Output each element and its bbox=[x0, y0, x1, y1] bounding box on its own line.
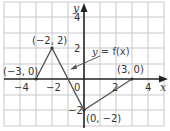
label-point-3-0: (3, 0) bbox=[117, 64, 144, 75]
point-neg2-2 bbox=[50, 46, 53, 49]
tick-y-2: 2 bbox=[74, 43, 80, 54]
label-point-0-neg2: (0, −2) bbox=[86, 113, 121, 124]
function-label: y = f(x) bbox=[91, 46, 130, 57]
fn-label-arrowhead-icon bbox=[70, 65, 77, 70]
function-graph: y x 4 2 −2 −4 −2 0 2 4 (−3, 0) (−2, 2) (… bbox=[0, 0, 170, 131]
tick-x-neg2: −2 bbox=[46, 82, 61, 93]
point-3-0 bbox=[130, 77, 133, 80]
label-point-neg2-2: (−2, 2) bbox=[32, 35, 67, 46]
tick-y-neg2: −2 bbox=[68, 105, 83, 116]
point-neg3-0 bbox=[34, 77, 37, 80]
tick-y-4: 4 bbox=[74, 12, 80, 23]
tick-x-4: 4 bbox=[145, 82, 151, 93]
label-point-neg3-0: (−3, 0) bbox=[3, 66, 38, 77]
tick-origin: 0 bbox=[74, 82, 80, 93]
tick-x-neg4: −4 bbox=[14, 82, 29, 93]
x-axis-label: x bbox=[160, 81, 167, 94]
tick-x-2: 2 bbox=[112, 82, 118, 93]
point-0-neg2 bbox=[82, 108, 85, 111]
y-axis-arrow-icon bbox=[81, 3, 88, 12]
fn-label-arrow bbox=[73, 56, 100, 68]
